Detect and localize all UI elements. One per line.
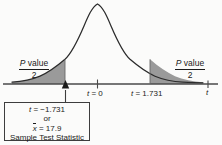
callout-xbar-value: = 17.9: [37, 124, 62, 133]
callout-xbar-symbol: x: [33, 124, 37, 133]
p-value-left-numerator: P value: [19, 59, 49, 70]
p-value-left-word: value: [28, 58, 48, 68]
sample-test-statistic-callout: t = −1.731 or x = 17.9 Sample Test Stati…: [4, 102, 90, 141]
p-value-left-label: P value 2: [6, 53, 62, 79]
p-value-left-denominator: 2: [6, 71, 62, 80]
p-value-right-denominator: 2: [162, 71, 218, 80]
callout-line-or: or: [5, 114, 89, 123]
p-value-right-word: value: [184, 58, 204, 68]
axis-name-label: t: [206, 89, 208, 97]
callout-line-xbar: x = 17.9: [5, 124, 89, 133]
p-value-right-numerator: P value: [175, 59, 205, 70]
tick-label-right: t = 1.731: [131, 90, 162, 98]
callout-xbar-var: x: [33, 124, 37, 133]
callout-t-value: = −1.731: [31, 105, 65, 114]
tick-label-center: t = 0: [87, 90, 103, 98]
tick-label-center-eq: = 0: [89, 89, 103, 98]
callout-line-t: t = −1.731: [5, 105, 89, 114]
p-value-right-p: P: [176, 58, 182, 68]
p-value-right-label: P value 2: [162, 53, 218, 79]
tick-label-right-eq: = 1.731: [133, 89, 162, 98]
xbar-overbar-icon: [33, 123, 36, 124]
t-distribution-figure: P value 2 P value 2 t = 0 t = 1.731 t t …: [0, 0, 222, 145]
p-value-left-p: P: [20, 58, 26, 68]
callout-line-caption: Sample Test Statistic: [5, 133, 89, 142]
